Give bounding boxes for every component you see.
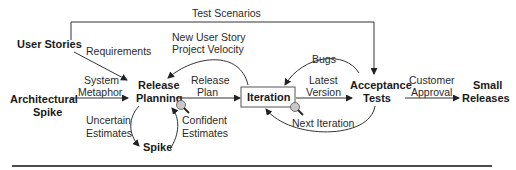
node-user-stories: User Stories (17, 38, 82, 50)
node-architectural-spike-line2: Spike (33, 106, 62, 118)
edge-label-system-metaphor-line2: Metaphor (78, 86, 123, 98)
edge-label-release-plan-line2: Plan (197, 86, 218, 98)
node-release-planning-line2: Planning (136, 92, 182, 104)
edge-label-uncertain-line2: Estimates (86, 127, 132, 139)
edge-label-release-plan-line1: Release (191, 74, 230, 86)
edge-label-next-iteration: Next Iteration (292, 117, 355, 129)
node-release-planning-line1: Release (138, 79, 180, 91)
edge-label-customer: Customer (409, 74, 455, 86)
node-iteration-label: Iteration (247, 91, 291, 103)
edge-system-metaphor: System Metaphor (71, 74, 128, 98)
edge-label-bugs: Bugs (312, 53, 336, 65)
edge-uncertain-estimates: Uncertain Estimates (86, 106, 139, 146)
edge-latest-version: Latest Version (296, 74, 352, 98)
node-acceptance-tests-line1: Acceptance (350, 79, 412, 91)
xp-process-diagram: Test Scenarios User Stories Requirements… (0, 0, 516, 170)
magnifier-icon (291, 103, 304, 116)
node-spike: Spike (143, 141, 172, 153)
edge-label-test-scenarios: Test Scenarios (192, 7, 261, 19)
edge-label-approval: Approval (411, 86, 452, 98)
edge-label-project-velocity: Project Velocity (172, 43, 245, 55)
edge-label-new-user-story: New User Story (172, 31, 246, 43)
node-iteration: Iteration (241, 87, 295, 107)
node-small-releases-line1: Small (473, 79, 502, 91)
edge-release-plan: Release Plan (176, 74, 240, 98)
edge-label-version: Version (306, 86, 341, 98)
edge-label-confident-line1: Confident (182, 114, 227, 126)
edge-label-system-metaphor-line1: System (84, 74, 119, 86)
magnifier-icon (177, 101, 190, 114)
edge-customer-approval: Customer Approval (405, 74, 459, 98)
node-acceptance-tests-line2: Tests (363, 92, 391, 104)
edge-label-uncertain-line1: Uncertain (86, 114, 131, 126)
edge-confident-estimates: Confident Estimates (170, 108, 228, 149)
edge-label-requirements: Requirements (86, 45, 151, 57)
node-architectural-spike-line1: Architectural (10, 93, 78, 105)
edge-next-iteration: Next Iteration (266, 106, 375, 132)
edge-label-confident-line2: Estimates (182, 127, 228, 139)
node-small-releases-line2: Releases (462, 92, 510, 104)
edge-label-latest: Latest (309, 74, 338, 86)
